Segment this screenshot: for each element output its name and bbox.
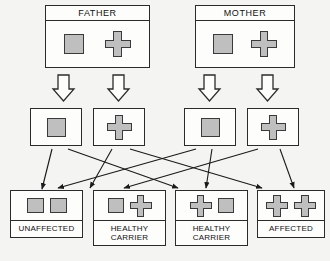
offspring-label-line: HEALTHY xyxy=(111,224,149,234)
offspring-label-line: AFFECTED xyxy=(269,224,313,234)
offspring-label-4: AFFECTED xyxy=(258,221,324,237)
normal-allele-square-icon xyxy=(108,198,124,213)
offspring-box-3: HEALTHY CARRIER xyxy=(175,190,248,246)
mutant-allele-cross-icon xyxy=(266,195,288,217)
mutant-allele-cross-icon xyxy=(130,195,152,217)
offspring-label-3: HEALTHY CARRIER xyxy=(176,221,247,245)
offspring-label-1: UNAFFECTED xyxy=(11,221,82,237)
fertilization-arrow-g4-o2 xyxy=(124,149,258,188)
offspring-label-line: HEALTHY xyxy=(193,224,231,234)
normal-allele-square-icon xyxy=(50,198,67,213)
fertilization-arrow-g2-o4 xyxy=(130,149,262,188)
offspring-label-line: CARRIER xyxy=(111,233,148,243)
fertilization-arrow-g1-o1 xyxy=(42,149,52,189)
offspring-alleles-2 xyxy=(94,191,165,221)
fertilization-arrow-g3-o3 xyxy=(206,149,212,188)
inheritance-diagram: FATHER MOTHER xyxy=(0,0,330,261)
normal-allele-square-icon xyxy=(218,198,234,213)
mutant-allele-cross-icon xyxy=(294,195,316,217)
fertilization-arrow-g1-o3 xyxy=(68,149,178,188)
offspring-label-2: HEALTHY CARRIER xyxy=(94,221,165,245)
offspring-box-2: HEALTHY CARRIER xyxy=(93,190,166,246)
fertilization-arrow-g2-o2 xyxy=(90,149,112,188)
fertilization-arrow-g3-o1 xyxy=(58,149,196,188)
fertilization-arrow-g4-o4 xyxy=(280,149,294,188)
normal-allele-square-icon xyxy=(27,198,44,213)
offspring-label-line: UNAFFECTED xyxy=(19,224,75,234)
offspring-label-line: CARRIER xyxy=(193,233,230,243)
offspring-alleles-1 xyxy=(11,191,82,221)
offspring-alleles-4 xyxy=(258,191,324,221)
offspring-box-4: AFFECTED xyxy=(257,190,325,238)
mutant-allele-cross-icon xyxy=(190,195,212,217)
offspring-box-1: UNAFFECTED xyxy=(10,190,83,238)
offspring-alleles-3 xyxy=(176,191,247,221)
